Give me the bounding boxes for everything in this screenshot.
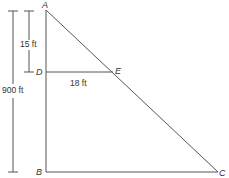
point-d-label: D bbox=[36, 67, 43, 77]
label-de-length: 18 ft bbox=[70, 78, 87, 88]
label-ad-length: 15 ft bbox=[20, 39, 37, 49]
point-e-label: E bbox=[115, 66, 122, 76]
similar-triangles-diagram: 15 ft 900 ft 18 ft A D E B C bbox=[0, 0, 229, 178]
point-b-label: B bbox=[36, 167, 42, 177]
label-ab-length: 900 ft bbox=[2, 85, 24, 95]
point-a-label: A bbox=[41, 0, 48, 10]
point-c-label: C bbox=[219, 168, 226, 178]
segment-ac bbox=[46, 10, 218, 172]
